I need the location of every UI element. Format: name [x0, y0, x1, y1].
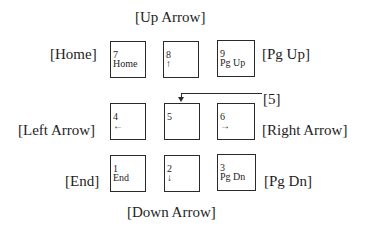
left-arrow-icon: ← [113, 121, 123, 131]
key-6-right[interactable]: 6 → [217, 103, 255, 140]
right-arrow-label: [Right Arrow] [262, 123, 347, 138]
key-function: Home [113, 59, 137, 69]
five-label: [5] [263, 92, 281, 107]
key-function: End [113, 173, 129, 183]
key-7-home[interactable]: 7 Home [110, 41, 146, 78]
key-4-left[interactable]: 4 ← [110, 103, 146, 140]
callout-line [181, 93, 262, 94]
key-function: Pg Dn [220, 172, 245, 182]
up-arrow-icon: ↑ [166, 59, 171, 69]
left-arrow-label: [Left Arrow] [18, 123, 95, 138]
home-label: [Home] [50, 47, 97, 62]
end-label: [End] [65, 174, 99, 189]
down-arrow-icon: ↓ [167, 173, 172, 183]
key-9-pgup[interactable]: 9 Pg Up [217, 40, 255, 77]
key-function: Pg Up [220, 58, 245, 68]
right-arrow-icon: → [220, 121, 230, 131]
down-arrowhead-icon [178, 97, 184, 102]
key-2-down[interactable]: 2 ↓ [164, 155, 200, 192]
key-3-pgdn[interactable]: 3 Pg Dn [217, 154, 256, 191]
up-arrow-label: [Up Arrow] [135, 10, 205, 25]
key-number: 5 [167, 112, 172, 122]
key-8-up[interactable]: 8 ↑ [163, 41, 199, 78]
pg-dn-label: [Pg Dn] [264, 174, 312, 189]
key-1-end[interactable]: 1 End [110, 155, 146, 192]
down-arrow-label: [Down Arrow] [127, 205, 216, 220]
key-5[interactable]: 5 [164, 103, 200, 140]
pg-up-label: [Pg Up] [262, 47, 310, 62]
